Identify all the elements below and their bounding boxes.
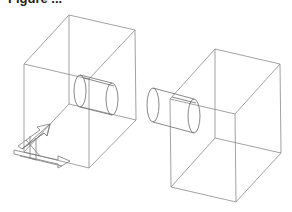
left-block (24, 15, 136, 168)
left-shaft (74, 75, 118, 115)
figure-canvas (0, 0, 292, 212)
right-block (170, 49, 281, 202)
